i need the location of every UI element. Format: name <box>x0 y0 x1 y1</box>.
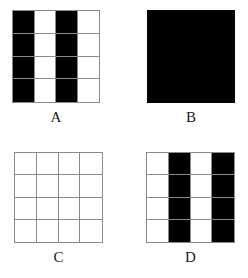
grid-cell <box>169 175 191 197</box>
grid-cell <box>212 198 234 220</box>
grid-cell <box>13 79 35 102</box>
panel-d: D <box>124 139 248 278</box>
grid-cell <box>80 175 102 197</box>
panel-c-label: C <box>14 250 103 265</box>
grid-cell <box>15 220 37 242</box>
grid-cell <box>78 11 100 34</box>
grid-cell <box>35 34 57 57</box>
grid-cell <box>13 34 35 57</box>
grid-cell <box>78 34 100 57</box>
grid-cell <box>59 198 81 220</box>
grid-cell <box>191 153 213 175</box>
grid-cell <box>15 198 37 220</box>
grid-cell <box>169 220 191 242</box>
grid-cell <box>37 220 59 242</box>
panel-a-grid <box>12 10 100 103</box>
panel-b: B <box>124 0 248 139</box>
panel-d-label: D <box>146 250 235 265</box>
grid-cell <box>147 153 169 175</box>
grid-cell <box>37 175 59 197</box>
grid-cell <box>169 198 191 220</box>
grid-cell <box>80 153 102 175</box>
grid-cell <box>212 175 234 197</box>
grid-cell <box>15 153 37 175</box>
grid-cell <box>147 198 169 220</box>
grid-cell <box>212 153 234 175</box>
grid-cell <box>37 198 59 220</box>
grid-cell <box>147 175 169 197</box>
grid-cell <box>13 57 35 80</box>
panel-d-grid <box>146 152 235 243</box>
panel-a-label: A <box>12 110 100 125</box>
grid-cell <box>191 175 213 197</box>
panel-b-solid-square <box>147 10 235 103</box>
grid-cell <box>169 153 191 175</box>
figure-panels-container: A B C D <box>0 0 248 278</box>
grid-cell <box>78 57 100 80</box>
grid-cell <box>78 79 100 102</box>
grid-cell <box>191 220 213 242</box>
grid-cell <box>35 79 57 102</box>
grid-cell <box>147 220 169 242</box>
grid-cell <box>56 79 78 102</box>
panel-a: A <box>0 0 115 139</box>
grid-cell <box>56 34 78 57</box>
panel-b-label: B <box>147 110 235 125</box>
grid-cell <box>80 220 102 242</box>
grid-cell <box>59 175 81 197</box>
grid-cell <box>15 175 37 197</box>
grid-cell <box>59 153 81 175</box>
panel-c-grid <box>14 152 103 243</box>
grid-cell <box>35 11 57 34</box>
grid-cell <box>56 57 78 80</box>
grid-cell <box>37 153 59 175</box>
grid-cell <box>191 198 213 220</box>
grid-cell <box>80 198 102 220</box>
grid-cell <box>59 220 81 242</box>
panel-c: C <box>0 139 115 278</box>
grid-cell <box>13 11 35 34</box>
grid-cell <box>212 220 234 242</box>
grid-cell <box>56 11 78 34</box>
grid-cell <box>35 57 57 80</box>
